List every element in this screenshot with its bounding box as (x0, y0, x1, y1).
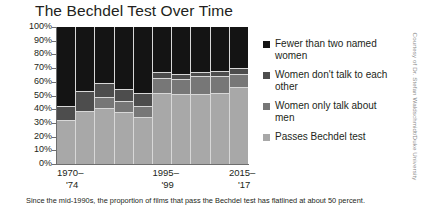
bar-segment (76, 111, 94, 164)
bar-segment (191, 27, 209, 72)
y-axis-tick-label: 70% (0, 62, 52, 72)
bar-segment (95, 97, 113, 108)
bar-segment (115, 27, 133, 89)
stacked-bars (57, 27, 248, 164)
bar-segment (95, 108, 113, 164)
bar-segment (115, 89, 133, 101)
y-axis-tick-label: 90% (0, 35, 52, 45)
credit-text: Courtesy of Dr. Stefan Waldschmidt/Duke … (410, 0, 422, 213)
bar-column (153, 27, 172, 164)
bar-segment (57, 27, 75, 106)
x-axis-labels: 1970–'741995–'992015–'17 (56, 167, 256, 197)
x-tick-line2: '17 (229, 179, 255, 191)
x-tick-line1: 1995– (153, 167, 179, 178)
chart-legend: Fewer than two named womenWomen don't ta… (263, 38, 398, 151)
bar-segment (134, 117, 152, 164)
bar-column (191, 27, 210, 164)
bar-segment (76, 91, 94, 110)
x-tick-line2: '99 (153, 179, 179, 191)
bar-segment (134, 27, 152, 93)
y-axis-tick-label: 10% (0, 144, 52, 154)
legend-swatch-icon (263, 134, 270, 141)
x-tick-line1: 1970– (57, 167, 83, 178)
legend-swatch-icon (263, 72, 270, 79)
legend-label: Passes Bechdel test (275, 131, 366, 143)
bar-column (211, 27, 230, 164)
y-axis-tick-label: 0% (0, 158, 52, 168)
legend-item: Women don't talk to each other (263, 69, 398, 92)
bar-segment (230, 74, 248, 88)
x-tick-line2: '74 (57, 179, 83, 191)
x-axis-tick-label: 1970–'74 (57, 167, 83, 190)
bar-segment (134, 93, 152, 107)
bar-segment (95, 83, 113, 97)
legend-swatch-icon (263, 41, 270, 48)
plot-area (57, 27, 248, 164)
bar-segment (172, 27, 190, 74)
bar-segment (76, 27, 94, 91)
bar-column (230, 27, 248, 164)
x-tick-line1: 2015– (229, 167, 255, 178)
y-axis-tick-label: 60% (0, 76, 52, 86)
bar-segment (115, 112, 133, 164)
bar-segment (115, 101, 133, 112)
bar-segment (153, 93, 171, 164)
chart-title: The Bechdel Test Over Time (0, 2, 268, 20)
bar-segment (211, 27, 229, 71)
legend-label: Women only talk about men (275, 100, 398, 123)
y-axis-tick-label: 80% (0, 48, 52, 58)
bar-segment (230, 87, 248, 164)
bechdel-test-chart-figure: The Bechdel Test Over Time 100%90%80%70%… (0, 0, 423, 213)
bar-segment (172, 94, 190, 164)
y-axis-tick-label: 40% (0, 103, 52, 113)
y-axis-tick-label: 50% (0, 90, 52, 100)
y-axis-labels: 100%90%80%70%60%50%40%30%20%10%0% (0, 27, 52, 164)
y-axis-tick-label: 30% (0, 117, 52, 127)
bar-segment (211, 93, 229, 164)
legend-label: Fewer than two named women (275, 38, 398, 61)
bar-segment (153, 27, 171, 72)
bar-column (172, 27, 191, 164)
bar-segment (230, 27, 248, 68)
x-axis-line (56, 164, 249, 165)
credit-label: Courtesy of Dr. Stefan Waldschmidt/Duke … (413, 33, 420, 181)
bar-segment (153, 78, 171, 93)
bar-segment (134, 106, 152, 117)
bar-segment (57, 106, 75, 120)
bar-column (95, 27, 114, 164)
legend-item: Fewer than two named women (263, 38, 398, 61)
bar-column (76, 27, 95, 164)
bar-segment (95, 27, 113, 83)
legend-item: Women only talk about men (263, 100, 398, 123)
x-axis-tick-label: 2015–'17 (229, 167, 255, 190)
y-axis-tick-label: 20% (0, 131, 52, 141)
bar-segment (57, 120, 75, 164)
chart-footnote: Since the mid-1990s, the proportion of f… (26, 196, 398, 205)
bar-segment (211, 76, 229, 92)
bar-segment (191, 94, 209, 164)
bar-segment (172, 79, 190, 94)
bar-column (134, 27, 153, 164)
legend-swatch-icon (263, 103, 270, 110)
legend-label: Women don't talk to each other (275, 69, 398, 92)
legend-item: Passes Bechdel test (263, 131, 398, 143)
x-axis-tick-label: 1995–'99 (153, 167, 179, 190)
y-axis-tick-label: 100% (0, 21, 52, 31)
bar-column (115, 27, 134, 164)
bar-column (57, 27, 76, 164)
bar-segment (191, 76, 209, 94)
